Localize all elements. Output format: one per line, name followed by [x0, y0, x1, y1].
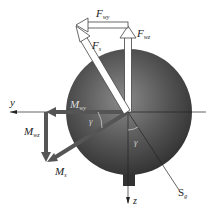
label-axis-y: y [9, 96, 15, 108]
label-m-wz: Mwz [23, 125, 40, 138]
y-axis-arrow-icon [10, 110, 17, 114]
label-f-wz: Fwz [136, 27, 151, 40]
label-axis-z: z [132, 195, 137, 205]
label-m-s: Ms [54, 165, 67, 178]
label-s-g: Sg [178, 186, 187, 199]
shaft [123, 174, 135, 186]
diagram-canvas: Fwy Fwz Fs Mwy Mwz Ms y z Sg γ γ [0, 0, 206, 205]
label-f-s: Fs [91, 39, 102, 52]
z-axis-arrow-icon [126, 197, 130, 204]
label-f-wy: Fwy [95, 7, 110, 20]
label-gamma-1: γ [89, 116, 93, 126]
f-wy-arrow [76, 18, 128, 32]
label-gamma-2: γ [134, 137, 138, 147]
